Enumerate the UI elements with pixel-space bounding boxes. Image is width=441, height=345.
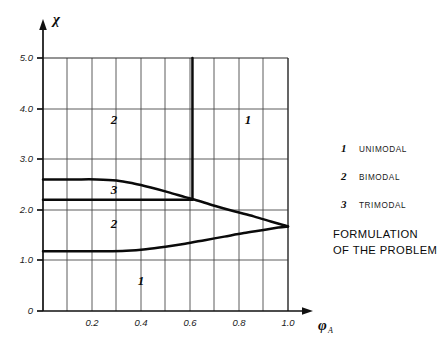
- caption-line-2: OF THE PROBLEM: [333, 244, 437, 256]
- y-tick-label: 5.0: [20, 52, 34, 63]
- x-tick-label: 0.2: [85, 317, 99, 328]
- curve-upper-boundary: [43, 179, 288, 226]
- legend-number-2: 2: [340, 170, 347, 182]
- legend-label-unimodal: UNIMODAL: [359, 145, 407, 154]
- curve-lower-boundary: [43, 227, 288, 252]
- phase-diagram-chart: 5.0 4.0 3.0 2.0 1.0 0 0.2 0.4 0.6 0.8 1.…: [0, 0, 441, 345]
- y-axis-symbol-chi: χ: [51, 11, 61, 27]
- x-axis-symbol-phi: φ: [318, 317, 327, 333]
- region-label-unimodal-right: 1: [245, 112, 252, 127]
- legend-number-1: 1: [341, 142, 347, 154]
- y-tick-label: 2.0: [19, 204, 34, 215]
- legend-label-bimodal: BIMODAL: [359, 173, 400, 182]
- grid-vertical: [67, 58, 288, 311]
- region-label-bimodal-upper: 2: [110, 112, 118, 127]
- y-axis-arrowhead: [39, 19, 47, 30]
- region-label-trimodal: 3: [110, 182, 118, 197]
- x-axis-subscript: A: [327, 326, 333, 335]
- y-tick-labels: 5.0 4.0 3.0 2.0 1.0 0: [19, 52, 34, 316]
- region-label-bimodal-lower: 2: [110, 216, 118, 231]
- x-tick-label: 0.8: [232, 317, 246, 328]
- y-tick-label: 3.0: [20, 153, 34, 164]
- legend: 1 UNIMODAL 2 BIMODAL 3 TRIMODAL: [340, 142, 407, 210]
- x-tick-label: 0.6: [183, 317, 197, 328]
- x-axis-arrowhead: [302, 307, 313, 315]
- y-tick-label: 1.0: [20, 254, 34, 265]
- axis-y: [39, 19, 47, 311]
- region-label-unimodal-bottom: 1: [138, 273, 145, 288]
- caption-line-1: FORMULATION: [333, 228, 418, 240]
- y-tick-label: 4.0: [20, 103, 34, 114]
- x-tick-labels: 0.2 0.4 0.6 0.8 1.0: [85, 317, 295, 328]
- figure-root: 5.0 4.0 3.0 2.0 1.0 0 0.2 0.4 0.6 0.8 1.…: [0, 0, 441, 345]
- legend-number-3: 3: [340, 198, 347, 210]
- axis-x: [43, 307, 313, 315]
- y-tick-marks: [37, 58, 43, 311]
- y-tick-label: 0: [28, 305, 34, 316]
- phase-boundary-curves: [43, 58, 288, 251]
- x-tick-label: 1.0: [281, 317, 295, 328]
- caption: FORMULATION OF THE PROBLEM: [333, 228, 437, 256]
- legend-label-trimodal: TRIMODAL: [359, 201, 406, 210]
- grid-horizontal: [43, 58, 288, 260]
- x-tick-label: 0.4: [134, 317, 147, 328]
